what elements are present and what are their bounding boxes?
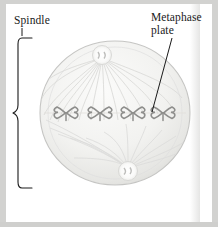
spindle-brace <box>13 38 32 188</box>
bottom-centrosome <box>119 162 138 181</box>
spindle-label: Spindle <box>14 14 50 27</box>
metaphase-plate-label: Metaphase plate <box>151 11 202 36</box>
metaphase-figure: Spindle Metaphase plate <box>0 0 218 227</box>
top-centrosome <box>93 46 112 65</box>
bottom-edge-strip <box>0 222 218 227</box>
